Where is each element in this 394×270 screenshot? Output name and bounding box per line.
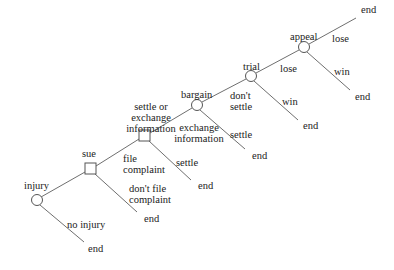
edge-label-exchange-information: exchange information	[170, 122, 228, 144]
edge-label-settle-1: settle	[176, 157, 198, 168]
edge-label-dont-file-complaint: don't file complaint	[129, 183, 171, 205]
end-label-settle-1: end	[198, 180, 213, 191]
node-label-bargain: bargain	[181, 89, 212, 100]
end-label-trial-win: end	[303, 120, 318, 131]
edge-label-trial-lose: lose	[280, 63, 297, 74]
node-label-sue: sue	[82, 148, 96, 159]
chance-node-appeal	[299, 42, 310, 53]
edge-label-file-complaint: file complaint	[123, 153, 165, 175]
end-label-dont-file: end	[144, 213, 159, 224]
edge-label-appeal-lose: lose	[332, 33, 349, 44]
edge-label-settle-2: settle	[230, 129, 252, 140]
chance-node-trial	[246, 71, 257, 82]
decision-tree-diagram: injury sue settle or exchange informatio…	[0, 0, 394, 270]
node-label-injury: injury	[24, 180, 49, 191]
node-label-appeal: appeal	[290, 31, 317, 42]
chance-node-injury	[32, 195, 43, 206]
edge-label-dont-settle: don't settle	[230, 90, 252, 112]
edge-label-trial-win: win	[282, 96, 298, 107]
edge-label-appeal-win: win	[334, 66, 350, 77]
edge-label-no-injury: no injury	[67, 219, 105, 230]
end-label-appeal-win: end	[355, 91, 370, 102]
end-label-appeal-lose: end	[361, 4, 376, 15]
end-label-no-injury: end	[88, 243, 103, 254]
decision-node-sue	[85, 163, 96, 174]
node-label-trial: trial	[243, 61, 260, 72]
chance-node-bargain	[192, 100, 203, 111]
end-label-settle-2: end	[252, 150, 267, 161]
